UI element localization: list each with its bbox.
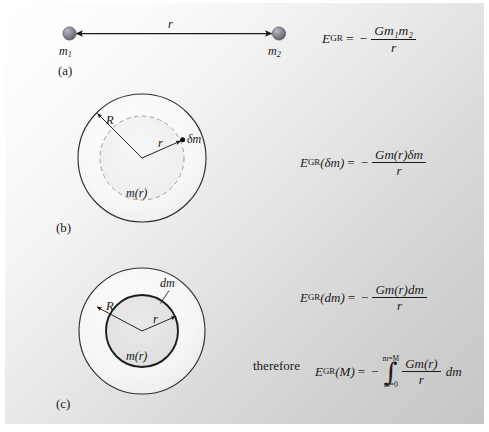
panel-label-b: (b) [56, 220, 71, 236]
label-enclosed-mass-b: m(r) [126, 186, 147, 201]
eq-c-lhs-sub: GR [308, 293, 320, 302]
label-R-b: R [106, 113, 114, 128]
eq-c-lhs: E [300, 291, 308, 304]
panel-label-a: (a) [58, 63, 72, 79]
eq-b-fraction: Gm(r)δm r [372, 148, 426, 177]
eq-c-equals: = [345, 291, 358, 304]
eq-a-equals: = [343, 32, 357, 46]
eq-result-numerator: Gm(r) [402, 357, 441, 372]
point-mass-m2 [272, 27, 285, 40]
eq-c-lhs-arg: (dm) [320, 291, 345, 304]
eq-a-fraction: Gm₁m₂ r [371, 24, 416, 54]
integral-glyph: ∫ [384, 363, 398, 382]
eq-b-lhs: E [300, 156, 308, 169]
label-r-b: r [158, 136, 163, 151]
mass-element-delta-m-b [180, 137, 185, 142]
figure-root: m1 m2 r (a) EGR = − Gm₁m₂ r R r δm m(r) … [0, 0, 489, 432]
eq-result-sign: − [368, 365, 380, 378]
eq-a-lhs-sub: GR [330, 34, 343, 43]
label-m2-a: m2 [268, 44, 281, 59]
label-separation-r-a: r [168, 17, 173, 32]
eq-a-lhs: E [322, 32, 330, 46]
eq-b-numerator: Gm(r)δm [372, 148, 426, 163]
eq-result-lhs-arg: (M) [335, 365, 355, 378]
panel-label-c: (c) [56, 396, 70, 412]
panel-b-graphic [78, 94, 206, 222]
label-dm-c: dm [160, 276, 175, 291]
therefore-connector: therefore [253, 359, 300, 372]
panel-c-graphic [79, 268, 205, 394]
eq-result-denominator: r [416, 372, 427, 386]
eq-c-denominator: r [394, 298, 405, 312]
label-m1-a: m1 [59, 44, 72, 59]
equation-a: EGR = − Gm₁m₂ r [322, 24, 418, 54]
equation-c: EGR(dm) = − Gm(r)dm r [300, 283, 429, 312]
eq-a-numerator: Gm₁m₂ [371, 24, 416, 40]
equation-b: EGR(δm) = − Gm(r)δm r [300, 148, 428, 177]
equation-result-integral: EGR(M) = − m=M ∫ m=0 Gm(r) r dm [315, 355, 462, 389]
eq-result-equals: = [355, 365, 368, 378]
eq-b-lhs-sub: GR [308, 158, 320, 167]
label-r-c: r [153, 312, 158, 327]
eq-b-equals: = [344, 156, 357, 169]
eq-b-lhs-arg: (δm) [320, 156, 344, 169]
eq-result-lhs-sub: GR [323, 367, 335, 376]
eq-result-lhs: E [315, 365, 323, 378]
eq-a-sign: − [357, 32, 370, 46]
eq-c-fraction: Gm(r)dm r [372, 283, 426, 312]
eq-c-sign: − [358, 291, 370, 304]
panel-a-graphic [63, 27, 286, 40]
eq-b-sign: − [358, 156, 370, 169]
eq-b-denominator: r [393, 163, 404, 177]
point-mass-m1 [63, 27, 76, 40]
eq-result-fraction: Gm(r) r [402, 357, 441, 386]
eq-c-numerator: Gm(r)dm [372, 283, 426, 298]
label-R-c: R [106, 299, 114, 314]
eq-a-denominator: r [388, 40, 399, 55]
integral-operator: m=M ∫ m=0 [382, 355, 399, 389]
therefore-word: therefore [253, 358, 300, 373]
eq-result-differential: dm [446, 365, 462, 378]
integral-lower-limit: m=0 [384, 381, 398, 389]
label-enclosed-mass-c: m(r) [126, 349, 147, 364]
label-delta-m-b: δm [187, 132, 201, 147]
